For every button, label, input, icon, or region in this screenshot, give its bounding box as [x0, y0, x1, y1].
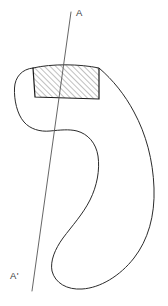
hatch-fill-rect [25, 58, 110, 108]
diagram-svg [0, 0, 168, 306]
figure-canvas: A A' [0, 0, 168, 306]
section-cut-line [32, 12, 71, 291]
section-label-a: A [76, 8, 83, 18]
section-label-a-prime: A' [10, 271, 19, 281]
hatch-group [25, 58, 110, 108]
